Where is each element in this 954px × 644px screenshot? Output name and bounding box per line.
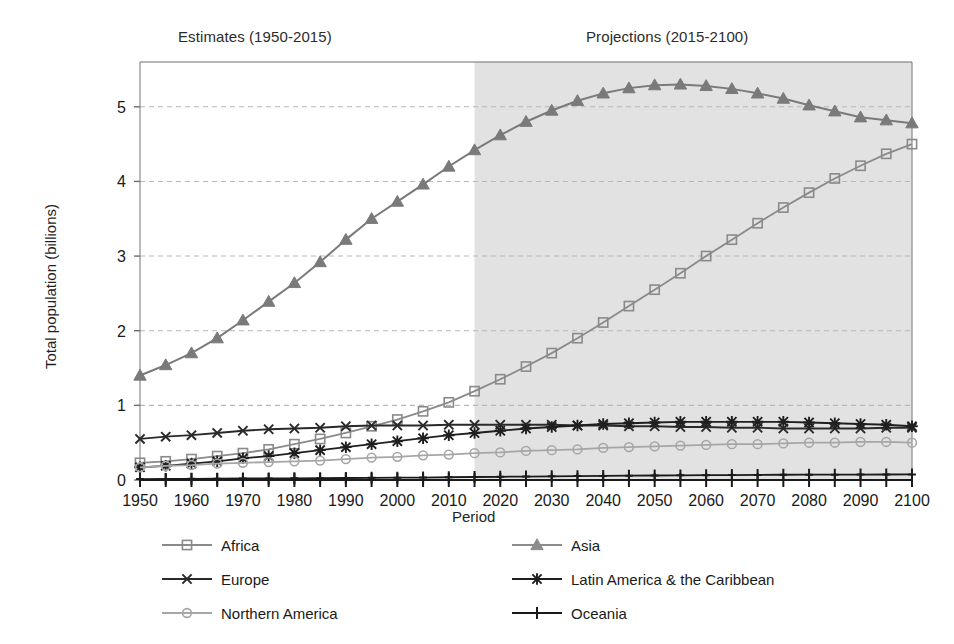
y-axis-tick-labels: 012345 [117, 99, 126, 489]
data-point-asterisk [340, 441, 352, 453]
legend-item-asia[interactable]: Asia [510, 535, 920, 555]
legend-marker-plus-icon [510, 603, 564, 623]
svg-text:2070: 2070 [740, 492, 776, 509]
data-point-triangle [237, 314, 249, 325]
data-point-asterisk [531, 573, 543, 585]
legend-label: Europe [221, 572, 269, 587]
population-chart: Estimates (1950-2015) Projections (2015-… [0, 0, 954, 644]
y-axis-ticks [134, 107, 140, 480]
data-point-plus [342, 472, 350, 484]
svg-text:2010: 2010 [431, 492, 467, 509]
data-point-plus [419, 472, 427, 484]
data-point-triangle [262, 295, 274, 306]
svg-text:2080: 2080 [791, 492, 827, 509]
svg-text:2040: 2040 [585, 492, 621, 509]
data-point-asterisk [443, 429, 455, 441]
data-point-triangle [160, 359, 172, 370]
data-point-asterisk [597, 418, 609, 430]
y-axis-title: Total population (billions) [42, 142, 59, 432]
svg-text:1990: 1990 [328, 492, 364, 509]
legend-label: Northern America [221, 606, 338, 621]
legend-item-europe[interactable]: Europe [160, 569, 510, 589]
data-point-triangle [391, 195, 403, 206]
x-axis-title: Period [452, 508, 495, 525]
data-point-asterisk [649, 417, 661, 429]
data-point-asterisk [469, 427, 481, 439]
data-point-asterisk [495, 425, 507, 437]
data-point-plus [162, 473, 170, 485]
legend-item-latin-america-the-caribbean[interactable]: Latin America & the Caribbean [510, 569, 920, 589]
legend-marker-asterisk-icon [510, 569, 564, 589]
svg-text:2030: 2030 [534, 492, 570, 509]
legend-marker-x-icon [160, 569, 214, 589]
svg-text:1: 1 [117, 397, 126, 414]
svg-text:1980: 1980 [277, 492, 313, 509]
svg-text:2060: 2060 [688, 492, 724, 509]
data-point-asterisk [520, 423, 532, 435]
legend-item-oceania[interactable]: Oceania [510, 603, 920, 623]
data-point-asterisk [855, 418, 867, 430]
svg-text:2050: 2050 [637, 492, 673, 509]
svg-text:4: 4 [117, 173, 126, 190]
data-point-plus [533, 607, 541, 619]
svg-text:2: 2 [117, 323, 126, 340]
data-point-triangle [443, 160, 455, 171]
data-point-triangle [417, 178, 429, 189]
svg-text:3: 3 [117, 248, 126, 265]
data-point-asterisk [829, 418, 841, 430]
svg-text:0: 0 [117, 472, 126, 489]
svg-text:5: 5 [117, 99, 126, 116]
data-point-plus [393, 472, 401, 484]
projection-shaded-region [475, 62, 912, 480]
legend-label: Latin America & the Caribbean [571, 572, 774, 587]
projection-shading [475, 62, 912, 480]
data-point-asterisk [700, 416, 712, 428]
data-point-asterisk [726, 416, 738, 428]
svg-text:2000: 2000 [380, 492, 416, 509]
legend-item-northern-america[interactable]: Northern America [160, 603, 510, 623]
data-point-plus [265, 472, 273, 484]
data-point-asterisk [803, 417, 815, 429]
legend-marker-circle-icon [160, 603, 214, 623]
data-point-asterisk [546, 421, 558, 433]
data-point-asterisk [314, 444, 326, 456]
svg-text:1970: 1970 [225, 492, 261, 509]
data-point-asterisk [417, 432, 429, 444]
x-axis-tick-labels: 1950196019701980199020002010202020302040… [122, 492, 930, 509]
legend-label: Oceania [571, 606, 627, 621]
data-point-plus [368, 472, 376, 484]
data-point-asterisk [675, 416, 687, 428]
data-point-asterisk [392, 435, 404, 447]
data-point-asterisk [906, 421, 918, 433]
data-point-asterisk [881, 419, 893, 431]
data-point-asterisk [623, 418, 635, 430]
legend-marker-triangle-icon [510, 535, 564, 555]
data-point-plus [316, 472, 324, 484]
data-point-triangle [365, 213, 377, 224]
data-point-asterisk [366, 438, 378, 450]
data-point-asterisk [572, 420, 584, 432]
data-point-plus [290, 472, 298, 484]
data-point-plus [188, 473, 196, 485]
svg-text:2090: 2090 [843, 492, 879, 509]
svg-text:1960: 1960 [174, 492, 210, 509]
legend-label: Asia [571, 538, 600, 553]
data-point-plus [239, 473, 247, 485]
data-point-triangle [185, 347, 197, 358]
data-point-asterisk [752, 416, 764, 428]
legend-label: Africa [221, 538, 259, 553]
chart-legend: AfricaAsiaEuropeLatin America & the Cari… [160, 528, 920, 630]
data-point-asterisk [778, 416, 790, 428]
data-point-plus [136, 473, 144, 485]
data-point-triangle [211, 332, 223, 343]
svg-text:1950: 1950 [122, 492, 158, 509]
data-point-plus [445, 471, 453, 483]
svg-text:2100: 2100 [894, 492, 930, 509]
legend-marker-square-icon [160, 535, 214, 555]
legend-item-africa[interactable]: Africa [160, 535, 510, 555]
svg-text:2020: 2020 [482, 492, 518, 509]
data-point-plus [213, 473, 221, 485]
